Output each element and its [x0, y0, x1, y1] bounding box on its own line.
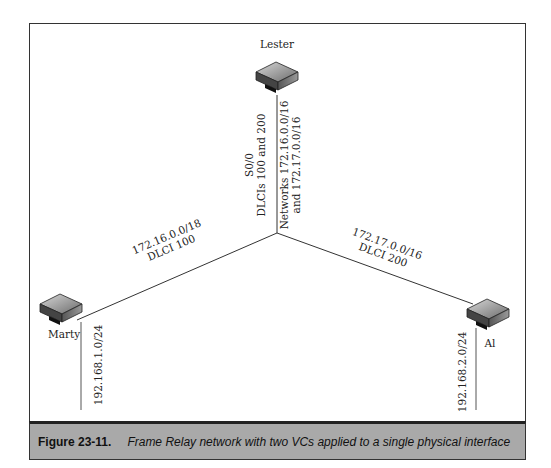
lester-dlci-label: DLCIs 100 and 200	[255, 114, 267, 217]
marty-lan-label: 192.168.1.0/24	[92, 325, 104, 406]
lester-networks-label-2: and 172.17.0.0/16	[290, 116, 302, 213]
lester-networks-label: Networks 172.16.0.0/16	[278, 100, 290, 229]
figure-caption-text: Frame Relay network with two VCs applied…	[127, 435, 510, 449]
lester-interface-label: S0/0	[243, 153, 255, 177]
router-al-label: Al	[484, 337, 497, 349]
al-lan-label: 192.168.2.0/24	[456, 332, 468, 413]
figure-caption: Figure 23-11. Frame Relay network with t…	[29, 421, 526, 460]
router-marty-icon[interactable]	[40, 294, 82, 325]
router-marty-label: Marty	[48, 328, 80, 340]
router-al-icon[interactable]	[467, 299, 509, 330]
figure-number: Figure 23-11.	[38, 435, 111, 449]
router-lester-icon[interactable]	[256, 62, 298, 93]
network-diagram: Lester Marty Al S0/0 DLCIs 100 and 200 N…	[0, 0, 551, 468]
router-lester-label: Lester	[260, 38, 295, 50]
